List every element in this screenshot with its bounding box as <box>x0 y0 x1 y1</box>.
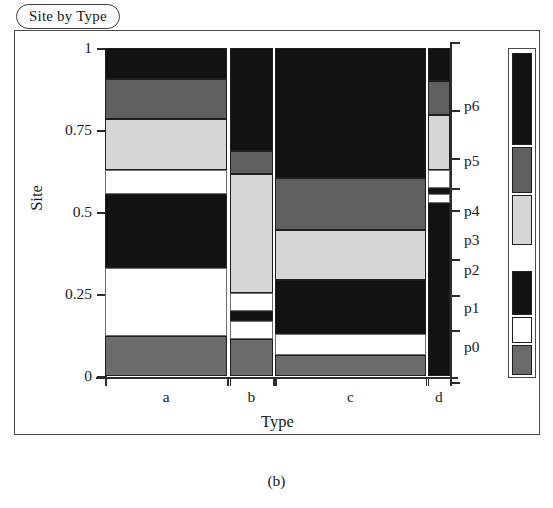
mosaic-tile-a-p5[interactable] <box>105 79 227 119</box>
mosaic-tile-d-p4[interactable] <box>428 115 450 170</box>
right-tick-mark-5 <box>451 259 460 261</box>
legend-swatch-p2[interactable] <box>512 271 532 315</box>
x-axis-label: Type <box>105 412 450 432</box>
y-axis-tick-labels: 10.750.50.250 <box>30 0 92 508</box>
y-tick-mark-3 <box>97 294 105 296</box>
x-tick-mark-0 <box>105 378 107 386</box>
y-tick-label-0: 1 <box>84 40 92 55</box>
mosaic-tile-b-p6[interactable] <box>230 48 273 151</box>
legend-swatch-p6[interactable] <box>512 53 532 145</box>
right-tick-label-p0: p0 <box>464 339 480 354</box>
legend-swatch-p1[interactable] <box>512 317 532 343</box>
mosaic-tile-c-p4[interactable] <box>275 230 426 280</box>
x-tick-label-a: a <box>136 388 196 406</box>
legend-swatch-p4[interactable] <box>512 195 532 245</box>
right-tick-mark-4 <box>451 210 460 212</box>
y-tick-mark-2 <box>97 212 105 214</box>
mosaic-tile-b-p2[interactable] <box>230 311 273 321</box>
legend-swatch-p5[interactable] <box>512 147 532 193</box>
x-tick-label-b: b <box>221 388 281 406</box>
x-tick-mark-1 <box>227 378 229 386</box>
right-axis-line <box>450 42 452 384</box>
mosaic-tile-b-p0[interactable] <box>230 339 273 376</box>
right-tick-label-p3: p3 <box>464 232 480 247</box>
x-tick-label-d: d <box>409 388 469 406</box>
x-axis-line <box>96 377 458 379</box>
mosaic-tile-c-p5[interactable] <box>275 178 426 230</box>
x-tick-mark-2 <box>230 378 232 386</box>
right-tick-label-p5: p5 <box>464 153 480 168</box>
mosaic-tile-d-p3[interactable] <box>428 170 450 188</box>
right-tick-mark-8 <box>451 382 460 384</box>
right-tick-label-p2: p2 <box>464 262 480 277</box>
mosaic-tile-a-p1[interactable] <box>105 268 227 336</box>
right-tick-mark-1 <box>451 110 460 112</box>
mosaic-tile-d-p6[interactable] <box>428 48 450 81</box>
mosaic-tile-d-p1[interactable] <box>428 194 450 203</box>
mosaic-tile-c-p6[interactable] <box>275 48 426 178</box>
mosaic-tile-b-p4[interactable] <box>230 174 273 293</box>
legend-swatch-p3[interactable] <box>512 247 532 269</box>
mosaic-tile-a-p0[interactable] <box>105 336 227 376</box>
right-tick-mark-0 <box>451 42 460 44</box>
y-tick-mark-0 <box>97 48 105 50</box>
mosaic-column-b[interactable] <box>230 48 273 376</box>
x-tick-mark-6 <box>428 378 430 386</box>
mosaic-tile-c-p2[interactable] <box>275 280 426 334</box>
figure-caption: (b) <box>0 472 553 490</box>
right-tick-label-p6: p6 <box>464 98 480 113</box>
mosaic-tile-b-p1[interactable] <box>230 321 273 339</box>
mosaic-tile-a-p6[interactable] <box>105 48 227 79</box>
mosaic-tile-d-p5[interactable] <box>428 81 450 115</box>
y-axis-label: Site <box>27 153 47 243</box>
mosaic-column-c[interactable] <box>275 48 426 376</box>
mosaic-tile-a-p2[interactable] <box>105 194 227 268</box>
mosaic-tile-d-p0[interactable] <box>428 203 450 376</box>
mosaic-tile-c-p0[interactable] <box>275 355 426 376</box>
mosaic-plot-area <box>105 48 450 376</box>
y-tick-label-3: 0.25 <box>65 286 92 301</box>
y-tick-mark-1 <box>97 130 105 132</box>
right-tick-label-p1: p1 <box>464 300 480 315</box>
mosaic-tile-a-p4[interactable] <box>105 119 227 170</box>
y-tick-mark-4 <box>97 376 105 378</box>
y-tick-label-4: 0 <box>84 368 92 383</box>
x-tick-mark-4 <box>275 378 277 386</box>
right-tick-label-p4: p4 <box>464 203 480 218</box>
x-tick-label-c: c <box>320 388 380 406</box>
mosaic-column-a[interactable] <box>105 48 227 376</box>
legend-color-key[interactable] <box>508 48 536 378</box>
mosaic-tile-c-p1[interactable] <box>275 334 426 355</box>
right-tick-mark-7 <box>451 330 460 332</box>
right-tick-mark-3 <box>451 188 460 190</box>
mosaic-column-d[interactable] <box>428 48 450 376</box>
legend-swatch-p0[interactable] <box>512 345 532 375</box>
mosaic-tile-b-p5[interactable] <box>230 151 273 174</box>
mosaic-tile-b-p3[interactable] <box>230 293 273 311</box>
right-tick-mark-2 <box>451 158 460 160</box>
y-tick-label-2: 0.5 <box>73 204 92 219</box>
y-tick-label-1: 0.75 <box>65 122 92 137</box>
mosaic-tile-a-p3[interactable] <box>105 170 227 194</box>
right-tick-mark-6 <box>451 295 460 297</box>
